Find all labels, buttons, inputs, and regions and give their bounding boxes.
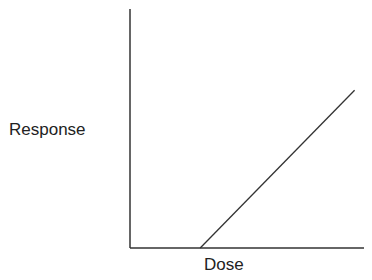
dose-response-chart bbox=[0, 0, 372, 280]
dose-response-line bbox=[200, 90, 354, 248]
x-axis-label: Dose bbox=[204, 256, 244, 273]
y-axis-label: Response bbox=[9, 121, 86, 138]
